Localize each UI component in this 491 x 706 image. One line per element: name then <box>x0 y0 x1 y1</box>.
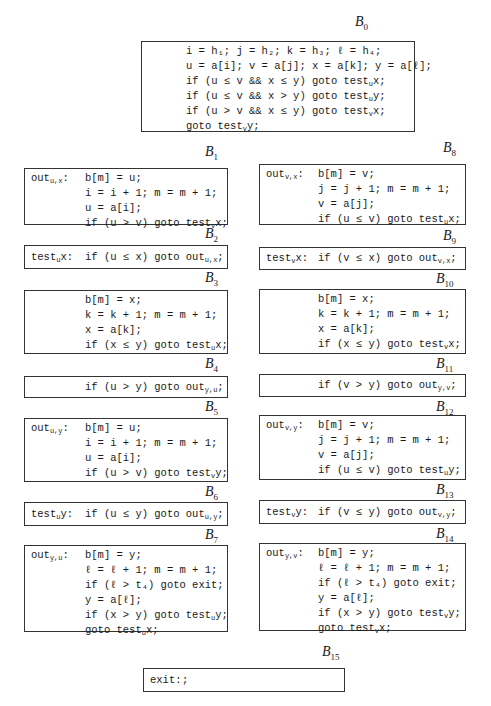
code-line: b[m] = v; <box>318 418 461 433</box>
code-line: x = a[k]; <box>85 323 228 338</box>
code-line: if (u > y) goto outy,u; <box>85 380 224 395</box>
block-label-b14: B14 <box>436 526 454 544</box>
code-line: if (x > y) goto testuy; <box>85 608 228 623</box>
basic-block-b4: if (u > y) goto outy,u; <box>24 376 228 398</box>
code-line: b[m] = x; <box>318 292 461 307</box>
basic-block-b10: b[m] = x;k = k + 1; m = m + 1;x = a[k];i… <box>259 289 466 354</box>
block-entry-label: outy,u: <box>31 548 69 563</box>
basic-block-b7: outy,u:b[m] = y;ℓ = ℓ + 1; m = m + 1;if … <box>24 545 228 632</box>
block-code: b[m] = x;k = k + 1; m = m + 1;x = a[k];i… <box>85 293 228 353</box>
block-entry-label: outv,y: <box>266 418 304 433</box>
block-label-b7: B7 <box>205 527 218 545</box>
code-line: if (u ≤ v) goto testux; <box>318 212 461 227</box>
block-label-b9: B9 <box>443 228 456 246</box>
code-line: if (u ≤ x) goto outu,x; <box>85 250 224 265</box>
block-entry-label: outy,v: <box>266 546 304 561</box>
basic-block-b14: outy,v:b[m] = y;ℓ = ℓ + 1; m = m + 1;if … <box>259 543 466 631</box>
basic-block-b15: exit:; <box>143 668 345 692</box>
block-entry-label: testux: <box>31 250 73 265</box>
block-code: b[m] = x;k = k + 1; m = m + 1;x = a[k];i… <box>318 292 461 352</box>
code-line: y = a[ℓ]; <box>318 591 461 606</box>
code-line: if (u > v) goto testvy; <box>85 466 228 481</box>
block-code: if (v ≤ x) goto outv,x; <box>318 251 457 266</box>
basic-block-b2: testux:if (u ≤ x) goto outu,x; <box>24 245 228 269</box>
code-line: b[m] = y; <box>85 548 228 563</box>
block-code: if (v > y) goto outy,v; <box>318 378 457 393</box>
code-line: if (u > v && x ≤ y) goto testvx; <box>186 104 432 119</box>
block-code: b[m] = v;j = j + 1; m = m + 1;v = a[j];i… <box>318 167 461 227</box>
basic-block-b5: outu,y:b[m] = u;i = i + 1; m = m + 1;u =… <box>24 418 228 482</box>
code-line: u = a[i]; v = a[j]; x = a[k]; y = a[ℓ]; <box>186 59 432 74</box>
code-line: goto testvx; <box>318 621 461 636</box>
block-code: b[m] = v;j = j + 1; m = m + 1;v = a[j];i… <box>318 418 461 478</box>
code-line: if (x ≤ y) goto testvx; <box>318 337 461 352</box>
block-label-b4: B4 <box>205 356 218 374</box>
block-entry-label: outu,y: <box>31 421 69 436</box>
block-label-b13: B13 <box>436 482 454 500</box>
block-label-b1: B1 <box>205 144 218 162</box>
block-entry-label: testvy: <box>266 505 308 520</box>
block-label-b11: B11 <box>436 356 453 374</box>
code-line: goto testvy; <box>186 119 432 134</box>
block-label-b3: B3 <box>205 270 218 288</box>
block-entry-label: testvx: <box>266 251 308 266</box>
block-label-b5: B5 <box>205 399 218 417</box>
code-line: u = a[i]; <box>85 451 228 466</box>
block-code: if (u ≤ x) goto outu,x; <box>85 250 224 265</box>
block-code: ; <box>182 673 188 688</box>
code-line: ℓ = ℓ + 1; m = m + 1; <box>85 563 228 578</box>
code-line: if (v ≤ y) goto outv,y; <box>318 505 457 520</box>
basic-block-b13: testvy:if (v ≤ y) goto outv,y; <box>259 500 466 524</box>
code-line: i = h₁; j = h₂; k = h₃; ℓ = h₄; <box>186 44 432 59</box>
basic-block-b0: i = h₁; j = h₂; k = h₃; ℓ = h₄;u = a[i];… <box>141 41 415 132</box>
basic-block-b3: b[m] = x;k = k + 1; m = m + 1;x = a[k];i… <box>24 290 228 354</box>
basic-block-b11: if (v > y) goto outy,v; <box>259 374 466 397</box>
code-line: ; <box>182 673 188 688</box>
block-code: if (v ≤ y) goto outv,y; <box>318 505 457 520</box>
block-entry-label: exit: <box>150 673 182 688</box>
code-line: if (x ≤ y) goto testux; <box>85 338 228 353</box>
code-line: v = a[j]; <box>318 197 461 212</box>
code-line: b[m] = v; <box>318 167 461 182</box>
basic-block-b9: testvx:if (v ≤ x) goto outv,x; <box>259 247 466 270</box>
code-line: k = k + 1; m = m + 1; <box>85 308 228 323</box>
block-label-b8: B8 <box>443 140 456 158</box>
block-label-b15: B15 <box>322 644 340 662</box>
code-line: ℓ = ℓ + 1; m = m + 1; <box>318 561 461 576</box>
code-line: v = a[j]; <box>318 448 461 463</box>
code-line: if (u ≤ v) goto testuy; <box>318 463 461 478</box>
block-code: if (u > y) goto outy,u; <box>85 380 224 395</box>
code-line: if (ℓ > t₄) goto exit; <box>318 576 461 591</box>
block-entry-label: outu,x: <box>31 171 69 186</box>
block-entry-label: outv,x: <box>266 167 304 182</box>
code-line: if (v > y) goto outy,v; <box>318 378 457 393</box>
block-label-b10: B10 <box>436 271 454 289</box>
code-line: if (v ≤ x) goto outv,x; <box>318 251 457 266</box>
basic-block-b1: outu,x:b[m] = u;i = i + 1; m = m + 1;u =… <box>24 168 228 225</box>
code-line: k = k + 1; m = m + 1; <box>318 307 461 322</box>
code-line: i = i + 1; m = m + 1; <box>85 436 228 451</box>
block-code: b[m] = u;i = i + 1; m = m + 1;u = a[i];i… <box>85 421 228 481</box>
block-entry-label: testuy: <box>31 507 73 522</box>
code-line: u = a[i]; <box>85 201 228 216</box>
code-line: b[m] = y; <box>318 546 461 561</box>
block-code: b[m] = y;ℓ = ℓ + 1; m = m + 1;if (ℓ > t₄… <box>85 548 228 638</box>
code-line: x = a[k]; <box>318 322 461 337</box>
code-line: i = i + 1; m = m + 1; <box>85 186 228 201</box>
code-line: if (u ≤ v && x ≤ y) goto testux; <box>186 74 432 89</box>
block-label-b2: B2 <box>205 226 218 244</box>
code-line: if (ℓ > t₄) goto exit; <box>85 578 228 593</box>
block-label-b0: B0 <box>355 14 368 32</box>
code-line: b[m] = x; <box>85 293 228 308</box>
basic-block-b12: outv,y:b[m] = v;j = j + 1; m = m + 1;v =… <box>259 415 466 480</box>
code-line: j = j + 1; m = m + 1; <box>318 182 461 197</box>
code-line: j = j + 1; m = m + 1; <box>318 433 461 448</box>
block-code: if (u ≤ y) goto outu,y; <box>85 507 224 522</box>
block-code: b[m] = u;i = i + 1; m = m + 1;u = a[i];i… <box>85 171 228 231</box>
block-code: i = h₁; j = h₂; k = h₃; ℓ = h₄;u = a[i];… <box>186 44 432 134</box>
code-line: if (x > y) goto testvy; <box>318 606 461 621</box>
code-line: if (u ≤ y) goto outu,y; <box>85 507 224 522</box>
code-line: if (u ≤ v && x > y) goto testuy; <box>186 89 432 104</box>
block-code: b[m] = y;ℓ = ℓ + 1; m = m + 1;if (ℓ > t₄… <box>318 546 461 636</box>
code-line: y = a[ℓ]; <box>85 593 228 608</box>
